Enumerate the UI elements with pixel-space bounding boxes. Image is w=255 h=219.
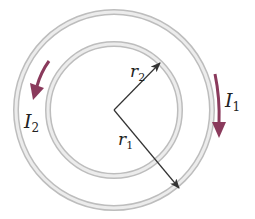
label-I2: I2	[23, 110, 39, 135]
label-r1: r1	[118, 129, 133, 152]
label-r2: r2	[130, 61, 145, 84]
current-arrow-I2-icon	[30, 61, 49, 100]
concentric-loops-diagram: r2 r1 I1 I2	[0, 0, 255, 219]
label-I1: I1	[224, 89, 240, 114]
